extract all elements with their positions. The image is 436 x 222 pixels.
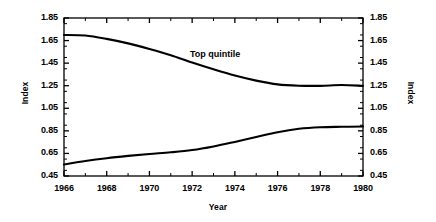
y-tick-label-left-6: 0.65 — [28, 147, 58, 157]
y-tick-label-left-4: 1.05 — [28, 102, 58, 112]
annotation-0: Top quintile — [190, 49, 240, 59]
chart-figure: Index Index Year 1.851.651.451.251.050.8… — [0, 0, 436, 222]
x-tick-label-6: 1978 — [303, 183, 337, 193]
y-tick-label-left-7: 0.45 — [28, 170, 58, 180]
series-line-0 — [64, 35, 363, 86]
x-tick-label-1: 1968 — [90, 183, 124, 193]
y-tick-label-right-1: 1.65 — [370, 35, 400, 45]
x-tick-label-3: 1972 — [175, 183, 209, 193]
x-tick-label-2: 1970 — [132, 183, 166, 193]
y-tick-label-right-3: 1.25 — [370, 80, 400, 90]
y-tick-label-left-2: 1.45 — [28, 57, 58, 67]
y-tick-label-left-3: 1.25 — [28, 80, 58, 90]
axis-ticks — [64, 18, 363, 176]
x-tick-label-5: 1976 — [261, 183, 295, 193]
x-tick-label-0: 1966 — [47, 183, 81, 193]
y-tick-label-left-5: 0.85 — [28, 125, 58, 135]
y-tick-label-right-0: 1.85 — [370, 12, 400, 22]
plot-frame — [64, 18, 363, 176]
y-tick-label-right-4: 1.05 — [370, 102, 400, 112]
series-line-1 — [64, 127, 363, 165]
y-tick-label-right-2: 1.45 — [370, 57, 400, 67]
x-tick-label-7: 1980 — [346, 183, 380, 193]
y-tick-label-left-0: 1.85 — [28, 12, 58, 22]
y-tick-label-left-1: 1.65 — [28, 35, 58, 45]
y-tick-label-right-5: 0.85 — [370, 125, 400, 135]
y-tick-label-right-7: 0.45 — [370, 170, 400, 180]
x-tick-label-4: 1974 — [218, 183, 252, 193]
y-tick-label-right-6: 0.65 — [370, 147, 400, 157]
